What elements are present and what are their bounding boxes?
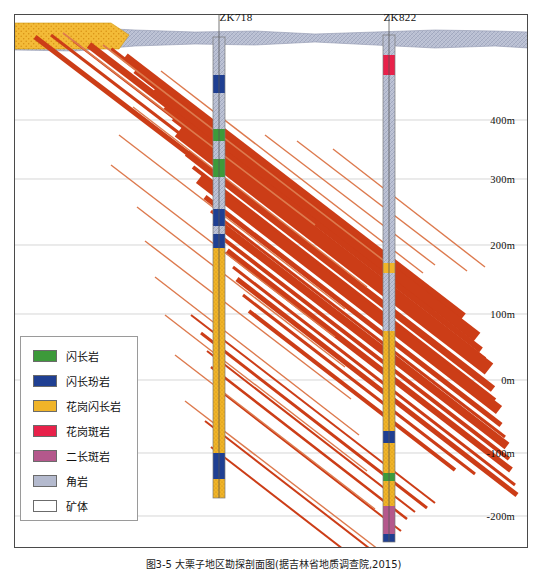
depth-label-300: 300m [490, 174, 515, 185]
legend-item: 花岗闪长岩 [21, 393, 137, 418]
borehole-ZK822[interactable] [383, 15, 395, 542]
legend-swatch-diorite [33, 350, 57, 362]
legend-label-diorite: 闪长岩 [66, 348, 99, 364]
borehole-label-ZK718: ZK718 [219, 11, 252, 23]
depth-label-200: 200m [490, 240, 515, 251]
legend-swatch-diorite-porphyrite [33, 375, 57, 387]
depth-label-minus100: -100m [487, 448, 515, 459]
depth-label-100: 100m [490, 309, 515, 320]
legend-item: 矿体 [21, 493, 137, 518]
legend-swatch-granite-porphyry [33, 425, 57, 437]
granodiorite-outcrop [15, 23, 129, 49]
legend-label-orebody: 矿体 [66, 498, 88, 514]
borehole-ZK718[interactable] [213, 15, 225, 498]
legend-label-hornfels: 角岩 [66, 473, 88, 489]
legend-label-diorite-porphyrite: 闪长玢岩 [66, 373, 110, 389]
depth-label-0: 0m [501, 375, 515, 386]
legend-swatch-monzonite-porphyry [33, 450, 57, 462]
legend-label-monzonite-porphyry: 二长斑岩 [66, 448, 110, 464]
legend-swatch-granodiorite [33, 400, 57, 412]
legend-item: 闪长玢岩 [21, 368, 137, 393]
legend-label-granite-porphyry: 花岗斑岩 [66, 423, 110, 439]
legend-item: 二长斑岩 [21, 443, 137, 468]
borehole-label-ZK822: ZK822 [383, 11, 416, 23]
depth-label-minus200: -200m [487, 511, 515, 522]
legend-item: 角岩 [21, 468, 137, 493]
legend-swatch-orebody [33, 500, 57, 512]
legend-item: 花岗斑岩 [21, 418, 137, 443]
figure-caption: 图3-5 大栗子地区勘探剖面图(据吉林省地质调查院,2015) [0, 556, 547, 571]
legend-swatch-hornfels [33, 475, 57, 487]
depth-label-400: 400m [490, 115, 515, 126]
legend-item: 闪长岩 [21, 343, 137, 368]
legend-label-granodiorite: 花岗闪长岩 [66, 398, 121, 414]
figure-frame: 闪长岩 闪长玢岩 花岗闪长岩 花岗斑岩 二长斑岩 角岩 矿体 400m 300m… [14, 14, 528, 548]
legend: 闪长岩 闪长玢岩 花岗闪长岩 花岗斑岩 二长斑岩 角岩 矿体 [20, 336, 138, 521]
